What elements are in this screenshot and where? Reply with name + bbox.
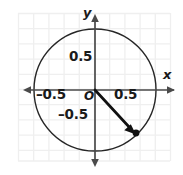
y-axis-down-arrow-icon (91, 159, 99, 167)
origin-label: O (84, 90, 94, 102)
x-axis-left-arrow-icon (23, 86, 31, 94)
y-axis-label: y (83, 6, 91, 19)
y-axis-up-arrow-icon (91, 14, 99, 22)
y-axis-tick-label-positive: 0.5 (69, 50, 92, 64)
x-axis-tick-label-negative: –0.5 (36, 88, 66, 102)
x-axis-label: x (163, 68, 171, 81)
figure-canvas (0, 0, 183, 175)
unit-circle-figure: 0.5 –0.5 0.5 –0.5 O y x (0, 0, 183, 175)
x-axis-tick-label-positive: 0.5 (114, 88, 137, 102)
y-axis-tick-label-negative: –0.5 (58, 108, 88, 122)
terminal-point-dot (133, 130, 140, 137)
